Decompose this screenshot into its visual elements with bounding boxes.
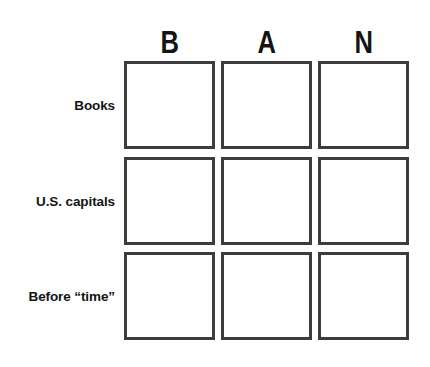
grid-row: Before “time” [0,252,430,340]
cell-before-time-b[interactable] [124,252,215,340]
row-label-books: Books [0,61,115,149]
cell-books-b[interactable] [124,61,215,149]
cell-us-capitals-n[interactable] [318,157,409,245]
row-cells [124,252,403,340]
column-header-row: B A N [124,16,403,58]
category-grid: B A N Books U.S. capitals Before [0,0,430,367]
grid-row: U.S. capitals [0,157,430,245]
row-cells [124,61,403,149]
grid-body: Books U.S. capitals Before “time” [0,61,430,351]
cell-before-time-a[interactable] [221,252,312,340]
cell-before-time-n[interactable] [318,252,409,340]
cell-books-n[interactable] [318,61,409,149]
column-header-b: B [133,26,206,58]
grid-row: Books [0,61,430,149]
column-header-a: A [230,26,303,58]
cell-us-capitals-a[interactable] [221,157,312,245]
cell-books-a[interactable] [221,61,312,149]
row-label-us-capitals: U.S. capitals [0,157,115,245]
row-label-before-time: Before “time” [0,252,115,340]
cell-us-capitals-b[interactable] [124,157,215,245]
row-cells [124,157,403,245]
column-header-n: N [327,26,400,58]
